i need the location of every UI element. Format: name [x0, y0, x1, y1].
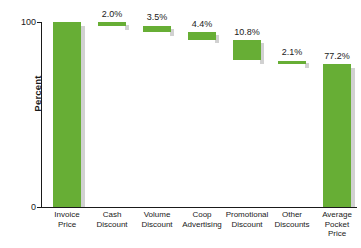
x-label-average-pocket-price-line1: Average [309, 210, 361, 220]
bar-other-discounts[interactable] [278, 61, 306, 65]
bar-slot-cash-discount: 2.0% [94, 22, 134, 208]
plot-area: 100 0 2.0% 3.5% 4.4% [41, 22, 357, 208]
bar-average-pocket-price[interactable] [323, 64, 351, 207]
bar-value-volume-discount: 3.5% [147, 12, 168, 22]
bar-value-other-discounts: 2.1% [282, 47, 303, 57]
y-tick-mark-0 [37, 207, 42, 208]
bar-value-promotional-discount: 10.8% [234, 27, 260, 37]
bar-slot-promotional-discount: 10.8% [229, 22, 269, 208]
bar-cash-discount[interactable] [98, 22, 126, 26]
bar-value-cash-discount: 2.0% [102, 9, 123, 19]
bar-value-average-pocket-price: 77.2% [324, 51, 350, 61]
y-tick-mark-100 [37, 22, 42, 23]
bar-coop-advertising[interactable] [188, 32, 216, 40]
bar-slot-invoice-price [49, 22, 89, 208]
bar-value-coop-advertising: 4.4% [192, 19, 213, 29]
x-label-average-pocket-price-line3: Price [309, 229, 361, 239]
bar-invoice-price[interactable] [53, 22, 81, 207]
y-tick-label-0: 0 [31, 202, 36, 212]
y-axis-line [41, 22, 42, 208]
x-axis-category-labels: Invoice Price Cash Discount Volume Disco… [41, 210, 357, 248]
bar-slot-average-pocket-price: 77.2% [319, 22, 359, 208]
bar-volume-discount[interactable] [143, 26, 171, 33]
bar-slot-volume-discount: 3.5% [139, 22, 179, 208]
price-waterfall-chart: Percent 100 0 2.0% 3.5% [0, 0, 361, 248]
bar-promotional-discount[interactable] [233, 40, 261, 60]
y-tick-label-100: 100 [21, 17, 36, 27]
bar-slot-other-discounts: 2.1% [274, 22, 314, 208]
x-label-average-pocket-price: Average Pocket Price [309, 210, 361, 239]
x-label-average-pocket-price-line2: Pocket [309, 220, 361, 230]
bar-slot-coop-advertising: 4.4% [184, 22, 224, 208]
